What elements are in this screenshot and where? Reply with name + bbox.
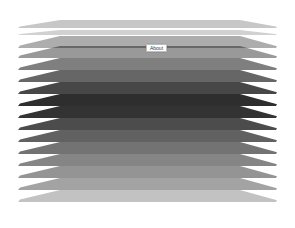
stacked-layers-graphic: [0, 0, 295, 228]
layer-sheet: [18, 58, 277, 70]
layer-sheet: [18, 190, 277, 202]
about-button[interactable]: About: [146, 44, 167, 52]
layer-sheet: [18, 70, 277, 82]
layer-sheet: [18, 106, 277, 118]
layer-sheet: [18, 142, 277, 154]
layer-sheet: [18, 20, 277, 28]
layer-sheet: [18, 178, 277, 190]
layered-sheet-stack: About: [0, 0, 295, 228]
layer-sheet: [18, 94, 277, 106]
layer-sheet: [18, 118, 277, 130]
layer-sheet: [18, 30, 277, 35]
layer-sheet: [18, 154, 277, 166]
layer-sheet: [18, 166, 277, 178]
layer-sheet: [18, 130, 277, 142]
layer-sheet: [18, 82, 277, 94]
